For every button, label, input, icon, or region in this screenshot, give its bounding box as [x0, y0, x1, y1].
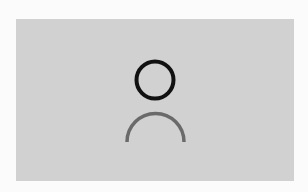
user-head-icon [137, 62, 174, 99]
user-body-icon [127, 114, 184, 143]
user-avatar-placeholder-icon [0, 0, 308, 192]
